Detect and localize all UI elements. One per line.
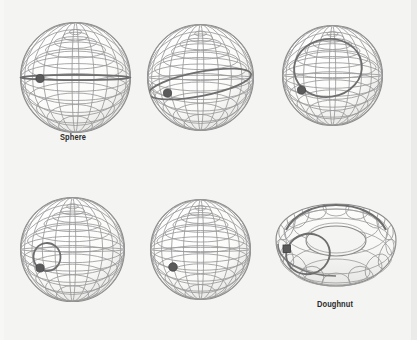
left-edge-band bbox=[0, 0, 4, 340]
torus-hole-outline bbox=[306, 226, 366, 256]
panel-torus-bottom-right bbox=[272, 196, 400, 300]
panel-sphere-bottom-left bbox=[18, 195, 127, 304]
panel-sphere-top-right bbox=[280, 23, 385, 128]
caption-sphere: Sphere bbox=[60, 132, 86, 142]
sphere-wireframe bbox=[18, 20, 133, 135]
panel-sphere-top-center bbox=[145, 22, 256, 133]
torus-wireframe bbox=[272, 196, 400, 300]
sphere-wireframe bbox=[145, 22, 256, 133]
sphere-wireframe bbox=[18, 195, 127, 304]
loop-marker-point bbox=[283, 245, 291, 253]
loop-marker-point bbox=[36, 74, 44, 82]
sphere-wireframe bbox=[148, 197, 253, 302]
right-edge-band bbox=[411, 0, 417, 340]
panel-sphere-bottom-center bbox=[148, 197, 253, 302]
loop-marker-point bbox=[36, 264, 44, 272]
loop-marker-point bbox=[163, 89, 171, 97]
sphere-wireframe bbox=[280, 23, 385, 128]
panel-sphere-top-left bbox=[18, 20, 133, 135]
topology-figure: Sphere bbox=[0, 0, 417, 340]
loop-marker-point bbox=[297, 86, 305, 94]
loop-marker-point bbox=[169, 263, 178, 272]
caption-doughnut: Doughnut bbox=[317, 299, 353, 309]
